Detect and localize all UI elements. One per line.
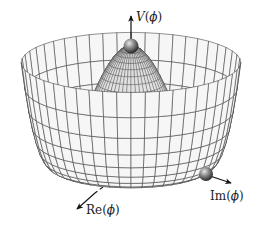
mesh-cell	[131, 85, 135, 93]
mesh-cell	[158, 116, 172, 138]
mesh-cell	[76, 88, 90, 115]
mesh-cell	[172, 88, 186, 115]
mesh-cell	[159, 90, 174, 117]
mesh-cell	[107, 176, 119, 183]
mesh-cell	[127, 85, 131, 93]
mesh-cell	[89, 34, 104, 62]
unstable-maximum-ball	[124, 39, 139, 54]
mesh-cell	[117, 118, 131, 139]
mesh-cell	[80, 135, 93, 153]
vertical-axis-label: V(ϕ)	[136, 10, 162, 24]
mesh-cell	[131, 155, 144, 168]
mesh-cell	[184, 86, 198, 114]
mesh-cell	[131, 118, 145, 139]
mesh-cell	[89, 90, 104, 117]
mesh-cell	[118, 155, 131, 168]
mesh-cell	[143, 167, 156, 177]
vacuum-minimum-ball	[199, 167, 213, 181]
mesh-cell	[131, 138, 144, 155]
mesh-cell	[92, 136, 106, 154]
mesh-cell	[82, 151, 95, 165]
mesh-cell	[128, 64, 131, 70]
mesh-cell	[159, 34, 174, 62]
mesh-cell	[129, 58, 131, 63]
mesh-cell	[104, 117, 118, 139]
mesh-cell	[157, 136, 171, 154]
mesh-cell	[131, 77, 135, 85]
mesh-cell	[78, 114, 92, 137]
mesh-cell	[131, 58, 133, 63]
mesh-cell	[143, 154, 156, 168]
mesh-cell	[128, 70, 131, 77]
mesh-cell	[106, 167, 119, 177]
mesh-cell	[119, 168, 131, 178]
mesh-cell	[127, 77, 131, 85]
mesh-cell	[131, 168, 143, 178]
mesh-cell	[167, 151, 180, 165]
mesh-cell	[131, 70, 134, 77]
mesh-cell	[78, 62, 92, 86]
mesh-cell	[131, 177, 143, 184]
mesh-cell	[131, 64, 134, 70]
mesh-cell	[76, 35, 90, 64]
mesh-cell	[120, 183, 132, 187]
mesh-cell	[135, 84, 140, 93]
imag-axis-label: Im(ϕ)	[210, 189, 244, 203]
mesh-cell	[117, 92, 131, 118]
mesh-cell	[90, 116, 104, 138]
mesh-cell	[170, 114, 184, 137]
mesh-cell	[123, 84, 128, 93]
mesh-cell	[144, 117, 158, 139]
mesh-cell	[170, 62, 184, 86]
mesh-cell	[131, 54, 133, 59]
mesh-cell	[145, 91, 160, 117]
real-axis-label: Re(ϕ)	[86, 203, 120, 217]
mesh-cell	[144, 138, 158, 155]
im-axis-arrow	[210, 176, 231, 183]
mesh-cell	[95, 166, 108, 177]
mesh-cell	[131, 183, 143, 187]
diagram-canvas: V(ϕ) Im(ϕ) Re(ϕ)	[0, 0, 264, 229]
mesh-cell	[131, 92, 145, 118]
mesh-cell	[119, 177, 131, 184]
mesh-cell	[155, 166, 168, 177]
mexican-hat-diagram: V(ϕ) Im(ϕ) Re(ϕ)	[0, 0, 264, 229]
mesh-cell	[103, 91, 118, 117]
mesh-cell	[143, 176, 155, 183]
mesh-cell	[93, 153, 106, 167]
mesh-cell	[129, 54, 131, 59]
mesh-cell	[105, 154, 118, 168]
mesh-cell	[156, 153, 169, 167]
mesh-cell	[105, 138, 119, 155]
mesh-cell	[169, 135, 182, 153]
mesh-cell	[172, 35, 186, 64]
mesh-cell	[64, 86, 78, 114]
mesh-cell	[118, 138, 131, 155]
